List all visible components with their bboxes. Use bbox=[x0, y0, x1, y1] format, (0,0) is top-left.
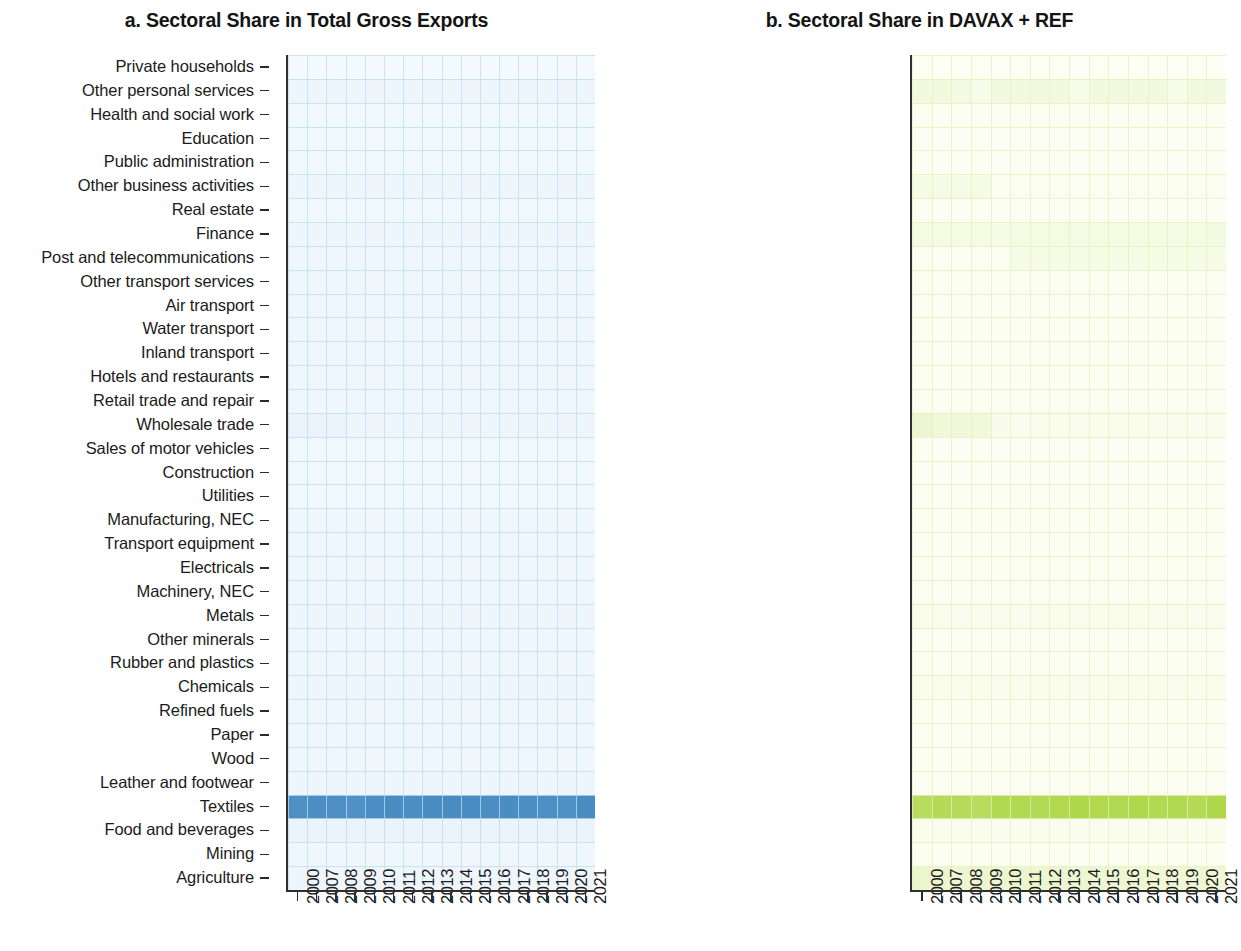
y-axis-tick bbox=[260, 186, 269, 187]
heatmap-cell bbox=[1128, 461, 1148, 485]
heatmap-cell bbox=[307, 842, 327, 866]
heatmap-cell bbox=[365, 628, 385, 652]
x-axis-tick bbox=[1157, 892, 1158, 901]
heatmap-cell bbox=[346, 198, 366, 222]
panel-b-heatmap[interactable] bbox=[912, 55, 1226, 890]
gridline-horizontal bbox=[912, 79, 1226, 80]
heatmap-cell bbox=[403, 651, 423, 675]
heatmap-cell bbox=[1069, 484, 1089, 508]
gridline-horizontal bbox=[912, 127, 1226, 128]
heatmap-cell bbox=[1187, 795, 1207, 819]
x-axis-tick-label: 2015 bbox=[476, 869, 495, 904]
heatmap-cell bbox=[1206, 294, 1226, 318]
heatmap-cell bbox=[480, 341, 500, 365]
heatmap-cell bbox=[971, 651, 991, 675]
heatmap-cell bbox=[1206, 604, 1226, 628]
heatmap-cell bbox=[932, 270, 952, 294]
heatmap-cell bbox=[576, 246, 595, 270]
heatmap-cell bbox=[1167, 246, 1187, 270]
y-axis-tick bbox=[260, 543, 269, 544]
heatmap-cell bbox=[403, 317, 423, 341]
heatmap-cell bbox=[346, 604, 366, 628]
heatmap-cell bbox=[1148, 437, 1168, 461]
heatmap-cell bbox=[307, 341, 327, 365]
heatmap-cell bbox=[1069, 747, 1089, 771]
heatmap-cell bbox=[365, 103, 385, 127]
panel-a-heatmap[interactable] bbox=[288, 55, 595, 890]
heatmap-cell bbox=[1108, 127, 1128, 151]
heatmap-cell bbox=[326, 675, 346, 699]
gridline-vertical bbox=[912, 55, 913, 890]
heatmap-cell bbox=[1030, 795, 1050, 819]
heatmap-cell bbox=[1010, 580, 1030, 604]
heatmap-cell bbox=[557, 174, 577, 198]
heatmap-cell bbox=[461, 341, 481, 365]
x-axis-tick bbox=[354, 892, 355, 901]
heatmap-cell bbox=[499, 55, 519, 79]
heatmap-cell bbox=[1148, 365, 1168, 389]
heatmap-cell bbox=[442, 270, 462, 294]
heatmap-cell bbox=[1010, 55, 1030, 79]
heatmap-cell bbox=[1089, 270, 1109, 294]
gridline-horizontal bbox=[912, 389, 1226, 390]
heatmap-cell bbox=[384, 103, 404, 127]
heatmap-cell bbox=[480, 747, 500, 771]
heatmap-cell bbox=[480, 556, 500, 580]
heatmap-cell bbox=[537, 365, 557, 389]
heatmap-cell bbox=[537, 174, 557, 198]
heatmap-cell bbox=[1128, 795, 1148, 819]
heatmap-cell bbox=[951, 747, 971, 771]
heatmap-cell bbox=[1010, 842, 1030, 866]
heatmap-cell bbox=[576, 79, 595, 103]
y-axis-tick bbox=[260, 66, 269, 67]
heatmap-cell bbox=[1010, 628, 1030, 652]
heatmap-cell bbox=[1069, 795, 1089, 819]
heatmap-cell bbox=[518, 818, 538, 842]
gridline-horizontal bbox=[912, 246, 1226, 247]
heatmap-cell bbox=[442, 675, 462, 699]
heatmap-cell bbox=[1187, 127, 1207, 151]
heatmap-cell bbox=[403, 270, 423, 294]
heatmap-cell bbox=[307, 675, 327, 699]
heatmap-cell bbox=[1049, 270, 1069, 294]
heatmap-cell bbox=[1049, 675, 1069, 699]
heatmap-cell bbox=[1108, 341, 1128, 365]
heatmap-cell bbox=[991, 842, 1011, 866]
heatmap-cell bbox=[932, 795, 952, 819]
x-axis-tick-label: 2017 bbox=[1144, 869, 1163, 904]
heatmap-cell bbox=[971, 747, 991, 771]
y-axis-tick-label: Sales of motor vehicles bbox=[86, 440, 254, 456]
heatmap-cell bbox=[557, 222, 577, 246]
x-axis-tick bbox=[1058, 892, 1059, 901]
heatmap-cell bbox=[422, 484, 442, 508]
heatmap-cell bbox=[1128, 747, 1148, 771]
heatmap-cell bbox=[1128, 651, 1148, 675]
heatmap-cell bbox=[403, 79, 423, 103]
x-axis-tick bbox=[316, 892, 317, 901]
heatmap-cell bbox=[971, 365, 991, 389]
heatmap-cell bbox=[991, 150, 1011, 174]
heatmap-cell bbox=[422, 127, 442, 151]
heatmap-cell bbox=[1089, 461, 1109, 485]
heatmap-cell bbox=[1128, 294, 1148, 318]
heatmap-cell bbox=[1187, 604, 1207, 628]
heatmap-cell bbox=[461, 699, 481, 723]
heatmap-cell bbox=[1089, 341, 1109, 365]
heatmap-cell bbox=[518, 413, 538, 437]
heatmap-cell bbox=[1148, 103, 1168, 127]
heatmap-cell bbox=[307, 294, 327, 318]
heatmap-cell bbox=[932, 532, 952, 556]
heatmap-cell bbox=[537, 628, 557, 652]
heatmap-cell bbox=[307, 103, 327, 127]
heatmap-cell bbox=[1148, 317, 1168, 341]
heatmap-cell bbox=[912, 127, 932, 151]
heatmap-cell bbox=[1167, 651, 1187, 675]
x-axis-tick-label: 2007 bbox=[323, 869, 342, 904]
heatmap-cell bbox=[991, 365, 1011, 389]
heatmap-cell bbox=[1167, 532, 1187, 556]
heatmap-cell bbox=[1030, 723, 1050, 747]
heatmap-cell bbox=[288, 842, 308, 866]
heatmap-cell bbox=[1010, 651, 1030, 675]
heatmap-cell bbox=[1206, 651, 1226, 675]
heatmap-cell bbox=[1167, 413, 1187, 437]
